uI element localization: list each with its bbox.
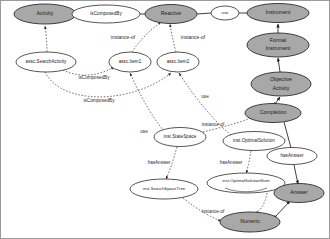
node-hasanswer-label: hasAnswer — [280, 153, 304, 158]
edge-label-iscomposedby-1: isComposedBy — [79, 75, 111, 80]
node-assc-searchactivity-label: assc.SearchActivity — [26, 59, 67, 64]
node-formal-instrument-label-line2: Instrument — [265, 45, 291, 51]
node-inst-optimalsolution[interactable]: inst.OptimalSolution — [223, 132, 285, 151]
node-activity[interactable]: Activity — [14, 4, 76, 24]
edge-searchactivity-to-activity — [45, 26, 47, 52]
edge-label-iscomposedby-2: isComposedBy — [84, 98, 116, 103]
node-completion[interactable]: Completion — [245, 104, 301, 123]
node-numeric[interactable]: Numeric — [220, 212, 280, 232]
node-completion-label: Completion — [260, 109, 287, 115]
ontology-graph: Activity isComposedBy Reactive use Instr… — [1, 1, 330, 239]
node-inst-statespace[interactable]: inst.StateSpace — [154, 128, 206, 147]
node-objective-activity[interactable]: Objective Activity — [251, 72, 311, 96]
node-formal-instrument-label-line1: Formal — [270, 37, 286, 43]
node-iscomposedby-label: isComposedBy — [90, 11, 122, 16]
node-assc-item2[interactable]: assc.Item2 — [157, 52, 199, 72]
edge-label-hasanswer-2: hasAnswer — [220, 160, 243, 165]
node-instrument-label: Instrument — [265, 9, 291, 15]
edge-label-instance-of-4: instance-of — [202, 209, 225, 214]
node-iscomposedby-relation[interactable]: isComposedBy — [72, 5, 140, 23]
node-assc-item1-label: assc.Item1 — [119, 59, 142, 64]
node-numeric-label: Numeric — [240, 218, 260, 224]
node-objective-activity-label-line1: Objective — [270, 76, 292, 82]
node-hasanswer-relation[interactable]: hasAnswer — [267, 148, 317, 165]
node-inst-searchspacetree[interactable]: inst.SearchSpaceTree — [130, 179, 198, 199]
edge-label-instance-of-1: instance-of — [111, 34, 136, 40]
edge-label-use-1: use — [201, 94, 209, 99]
node-assc-item2-label: assc.Item2 — [167, 59, 190, 64]
edge-reactive-use — [197, 13, 211, 14]
node-objective-activity-label-line2: Activity — [273, 85, 290, 91]
node-reactive-label: Reactive — [161, 10, 182, 16]
node-answer-label: Answer — [290, 189, 308, 195]
edge-label-use-2: use — [140, 129, 148, 134]
edge-completion-to-objective — [275, 97, 280, 104]
node-inst-optimalsolutionnum-label: inst.OptimalSolutionNum — [222, 178, 270, 183]
edge-objective-to-formal — [278, 58, 280, 72]
node-assc-item1[interactable]: assc.Item1 — [109, 52, 151, 72]
node-activity-label: Activity — [37, 10, 54, 16]
node-instrument[interactable]: Instrument — [247, 4, 309, 23]
node-assc-searchactivity[interactable]: assc.SearchActivity — [16, 52, 76, 72]
edge-item1-to-reactive — [132, 22, 161, 52]
node-inst-statespace-label: inst.StateSpace — [164, 134, 197, 139]
node-formal-instrument[interactable]: Formal Instrument — [247, 33, 309, 57]
edge-label-instance-of-2: instance-of — [181, 34, 206, 40]
node-answer[interactable]: Answer — [274, 184, 324, 203]
diagram-canvas: Activity isComposedBy Reactive use Instr… — [0, 0, 330, 239]
node-inst-optimalsolutionnum[interactable]: inst.OptimalSolutionNum — [207, 173, 285, 193]
edge-label-instance-of-3: instance-of — [202, 122, 225, 127]
edge-searchactivity-to-item1 — [63, 67, 114, 75]
edge-numeric-to-answer — [275, 201, 290, 217]
node-use-label: use — [222, 10, 230, 15]
edge-statespace-to-item1 — [130, 73, 164, 131]
node-use-relation[interactable]: use — [211, 6, 239, 20]
edge-item2-to-reactive — [170, 24, 176, 52]
edge-hasanswer-to-answer — [294, 165, 298, 184]
edge-optimalsolution-to-optimalsolutionnum — [246, 151, 251, 173]
node-inst-searchspacetree-label: inst.SearchSpaceTree — [143, 186, 186, 191]
edge-completion-to-hasanswer — [284, 122, 291, 148]
node-reactive[interactable]: Reactive — [145, 5, 197, 24]
node-inst-optimalsolution-label: inst.OptimalSolution — [233, 138, 275, 143]
edge-label-hasanswer-1: hasAnswer — [148, 160, 171, 165]
edge-optimalsolutionnum-to-numeric — [255, 193, 267, 213]
node-layer: Activity isComposedBy Reactive use Instr… — [14, 4, 324, 233]
